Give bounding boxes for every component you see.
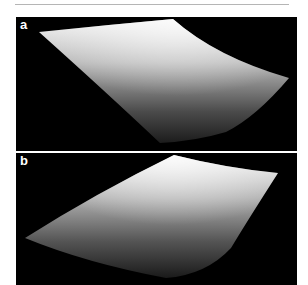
panel-a: a <box>16 17 297 151</box>
panel-label-a: a <box>20 17 27 32</box>
top-rule <box>15 4 289 5</box>
panel-b: b <box>16 153 297 285</box>
surface-b <box>16 153 297 285</box>
panel-label-b: b <box>20 153 28 168</box>
surface-a <box>16 17 297 151</box>
